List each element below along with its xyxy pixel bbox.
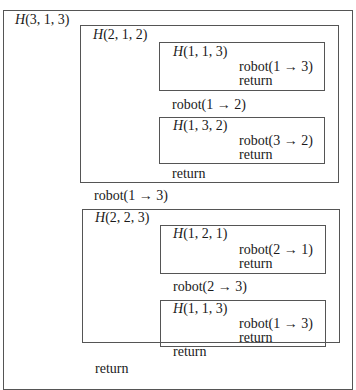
return-step: return	[239, 257, 272, 271]
function-args: (1, 2, 1)	[183, 226, 227, 241]
call-label-h212: H(2, 1, 2)	[93, 28, 147, 42]
return-step: return	[95, 362, 128, 376]
function-name: H	[173, 301, 183, 316]
move-step: robot(2 → 3)	[173, 280, 247, 294]
move-step: robot(1 → 3)	[239, 60, 313, 74]
function-name: H	[15, 12, 25, 27]
call-label-h113-b: H(1, 1, 3)	[173, 302, 227, 316]
call-label-h313: H(3, 1, 3)	[15, 13, 69, 27]
return-step: return	[239, 331, 272, 345]
function-args: (1, 1, 3)	[183, 44, 227, 59]
function-args: (2, 1, 2)	[103, 27, 147, 42]
call-label-h223: H(2, 2, 3)	[95, 211, 149, 225]
function-name: H	[173, 44, 183, 59]
return-step: return	[239, 74, 272, 88]
function-args: (2, 2, 3)	[105, 210, 149, 225]
move-step: robot(1 → 3)	[239, 317, 313, 331]
return-step: return	[173, 345, 206, 359]
function-args: (1, 1, 3)	[183, 301, 227, 316]
move-step: robot(2 → 1)	[239, 243, 313, 257]
return-step: return	[239, 148, 272, 162]
function-args: (3, 1, 3)	[25, 12, 69, 27]
call-label-h113-a: H(1, 1, 3)	[173, 45, 227, 59]
move-step: robot(3 → 2)	[239, 134, 313, 148]
function-name: H	[93, 27, 103, 42]
function-name: H	[95, 210, 105, 225]
function-args: (1, 3, 2)	[183, 118, 227, 133]
function-name: H	[173, 118, 183, 133]
move-step: robot(1 → 2)	[172, 98, 246, 112]
return-step: return	[172, 167, 205, 181]
function-name: H	[173, 226, 183, 241]
call-label-h132: H(1, 3, 2)	[173, 119, 227, 133]
move-step: robot(1 → 3)	[94, 189, 168, 203]
call-label-h121: H(1, 2, 1)	[173, 227, 227, 241]
